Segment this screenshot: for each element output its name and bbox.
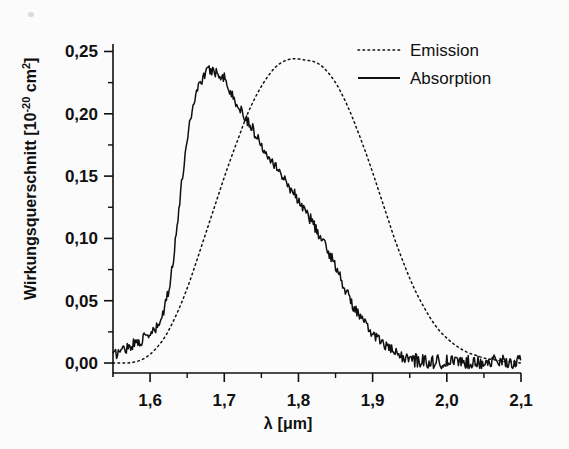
y-axis-title: Wirkungsquerschnitt [10-20 cm2]	[20, 58, 39, 300]
y-tick-label: 0,25	[65, 42, 98, 61]
x-axis-title-unit: [μm]	[278, 415, 313, 432]
y-tick-label: 0,10	[65, 229, 98, 248]
y-tick-label: 0,05	[65, 292, 98, 311]
y-axis-title-tail: cm	[22, 69, 39, 97]
legend-label-emission: Emission	[410, 41, 479, 60]
x-tick-label: 1,6	[138, 391, 162, 410]
svg-text:Wirkungsquerschnitt [10-20 cm2: Wirkungsquerschnitt [10-20 cm2]	[20, 58, 39, 300]
absorption-curve	[113, 66, 521, 369]
x-tick-label: 1,8	[287, 391, 311, 410]
svg-text:λ[μm]: λ[μm]	[264, 415, 313, 432]
y-axis-title-close: ]	[22, 58, 39, 63]
x-axis-ticks	[150, 373, 521, 382]
x-tick-label: 1,7	[212, 391, 236, 410]
y-axis-title-exponent: -20	[20, 97, 32, 113]
y-tick-label: 0,00	[65, 354, 98, 373]
x-tick-label: 2,0	[435, 391, 459, 410]
y-tick-label: 0,15	[65, 167, 98, 186]
x-axis-title: λ[μm]	[264, 415, 313, 432]
y-tick-label: 0,20	[65, 105, 98, 124]
y-axis-title-main: Wirkungsquerschnitt [10	[22, 112, 39, 300]
legend-label-absorption: Absorption	[410, 69, 491, 88]
x-tick-label: 1,9	[361, 391, 385, 410]
y-axis-tick-labels: 0,000,050,100,150,200,25	[65, 42, 98, 373]
legend-entry-emission[interactable]: Emission	[358, 41, 479, 60]
spectra-plot: 0,000,050,100,150,200,25 1,61,71,81,92,0…	[0, 0, 569, 449]
x-axis-title-lambda: λ	[264, 415, 273, 432]
x-tick-label: 2,1	[509, 391, 533, 410]
axis-frame	[113, 44, 521, 377]
figure-canvas: 0,000,050,100,150,200,25 1,61,71,81,92,0…	[0, 0, 569, 449]
y-axis-ticks	[104, 51, 113, 363]
x-axis-tick-labels: 1,61,71,81,92,02,1	[138, 391, 533, 410]
legend: Emission Absorption	[358, 41, 491, 88]
emission-curve	[113, 59, 520, 363]
legend-entry-absorption[interactable]: Absorption	[358, 69, 491, 88]
